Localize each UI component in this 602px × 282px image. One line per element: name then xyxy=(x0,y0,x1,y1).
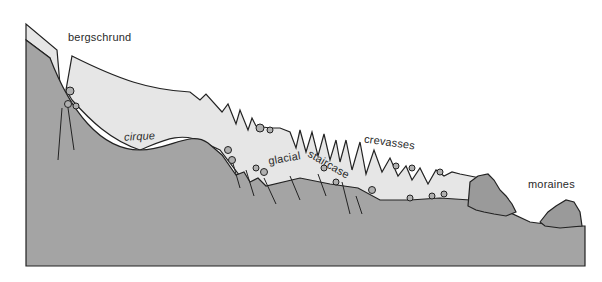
label-cirque: cirque xyxy=(124,129,156,143)
label-moraines: moraines xyxy=(528,178,575,190)
label-bergschrund: bergschrund xyxy=(68,31,131,43)
moraine-left xyxy=(468,174,516,216)
moraine-right xyxy=(540,200,582,228)
